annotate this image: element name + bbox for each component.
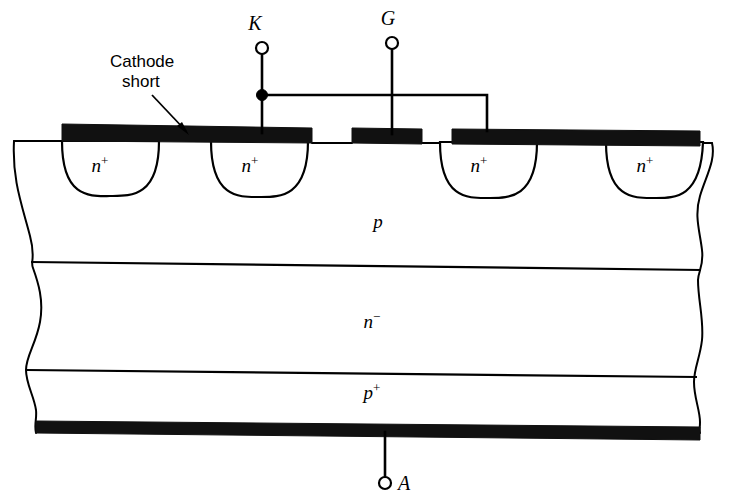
- cathode-short-callout: Cathode short: [110, 52, 189, 135]
- cathode-bus-wire: [262, 95, 487, 131]
- thyristor-cross-section-figure: K G A Cathode short n+ n+ n+ n+ p: [0, 0, 733, 503]
- p-base-label-base: p: [371, 211, 383, 232]
- n-plus-diffusion-wells: [62, 141, 703, 198]
- n-drift-label-base: n: [364, 311, 374, 332]
- n-plus-well-3: [440, 142, 537, 198]
- n-plus-label-3-sup: +: [480, 153, 487, 168]
- p-base-to-n-drift-boundary: [31, 262, 701, 270]
- n-drift-label: n−: [364, 309, 381, 332]
- n-plus-label-1-sup: +: [101, 153, 108, 168]
- gate-electrode-pad: [352, 128, 422, 144]
- n-plus-label-4-base: n: [637, 155, 647, 176]
- right-torn-edge: [694, 143, 713, 433]
- p-emitter-label: p+: [362, 380, 381, 403]
- n-drift-label-sup: −: [373, 309, 380, 324]
- device-cross-section-drawing: K G A Cathode short n+ n+ n+ n+ p: [0, 0, 733, 503]
- anode-electrode: [36, 421, 700, 440]
- gate-terminal-circle: [386, 37, 398, 49]
- left-torn-edge: [14, 141, 42, 433]
- n-plus-well-4: [606, 142, 703, 198]
- cathode-short-label-line1: Cathode: [110, 52, 174, 71]
- terminal-leads: [256, 37, 487, 489]
- n-plus-well-1: [62, 141, 159, 196]
- cathode-short-label-line2: short: [122, 72, 160, 91]
- p-base-label: p: [371, 211, 383, 232]
- cathode-terminal-label: K: [247, 12, 263, 34]
- n-plus-label-2-base: n: [242, 155, 252, 176]
- n-plus-label-2-sup: +: [251, 153, 258, 168]
- anode-terminal-label: A: [396, 472, 411, 494]
- cathode-junction-dot: [257, 90, 268, 101]
- n-plus-label-1-base: n: [92, 155, 102, 176]
- n-drift-to-p-emitter-boundary: [27, 370, 697, 377]
- region-labels: n+ n+ n+ n+ p n− p+: [92, 153, 654, 403]
- gate-terminal-label: G: [381, 7, 396, 29]
- n-plus-label-4-sup: +: [646, 153, 653, 168]
- n-plus-well-2: [211, 141, 308, 197]
- anode-terminal-circle: [379, 477, 391, 489]
- p-emitter-label-sup: +: [373, 380, 380, 395]
- cathode-terminal-circle: [256, 42, 268, 54]
- p-emitter-label-base: p: [362, 382, 374, 403]
- n-plus-label-3-base: n: [471, 155, 481, 176]
- cathode-electrode-right: [452, 129, 700, 146]
